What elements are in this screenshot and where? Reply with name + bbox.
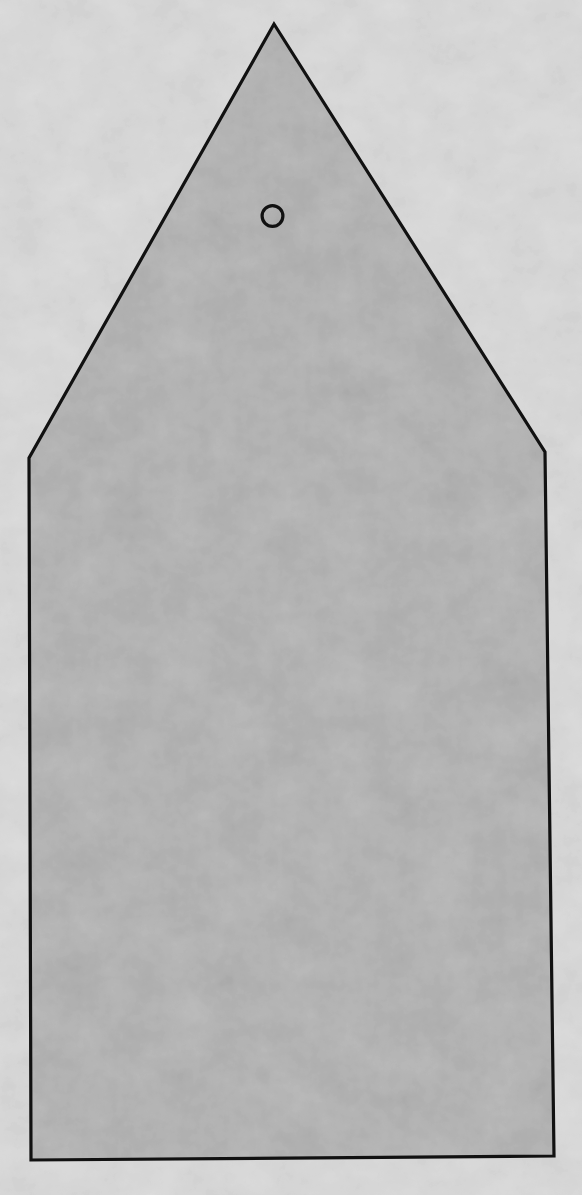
- drawing-canvas: Pentagon House Shape Outline Black outli…: [0, 0, 582, 1195]
- pentagon-house-figure: [0, 0, 582, 1195]
